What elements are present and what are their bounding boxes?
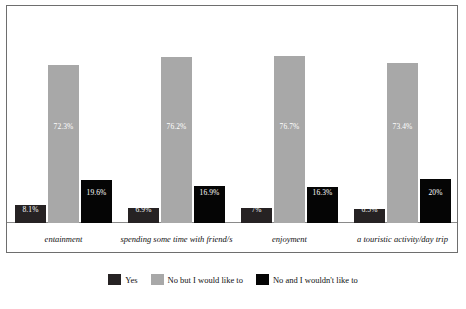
bar-no-and-wouldnt[interactable]: 19.6% bbox=[81, 180, 112, 223]
bar-value-label: 6.5% bbox=[354, 205, 385, 214]
bar-no-and-wouldnt[interactable]: 16.9% bbox=[194, 186, 225, 223]
bar-value-label: 8.1% bbox=[15, 205, 46, 214]
bar-cluster: 8.1%72.3%19.6% bbox=[7, 5, 120, 223]
bar-value-label: 76.7% bbox=[274, 122, 305, 131]
bar-groups: 8.1%72.3%19.6%entainment6.9%76.2%16.9%sp… bbox=[7, 6, 457, 252]
bar-no-and-wouldnt[interactable]: 20% bbox=[420, 179, 451, 223]
plot-area: 8.1%72.3%19.6%entainment6.9%76.2%16.9%sp… bbox=[6, 5, 458, 253]
legend-label: No and I wouldn't like to bbox=[273, 275, 358, 285]
grouped-bar-chart: 8.1%72.3%19.6%entainment6.9%76.2%16.9%sp… bbox=[0, 0, 466, 309]
bar-no-but-would[interactable]: 73.4% bbox=[387, 63, 418, 223]
bar-value-label: 73.4% bbox=[387, 122, 418, 131]
bar-no-but-would[interactable]: 76.7% bbox=[274, 56, 305, 223]
category-label: a touristic activity/day trip bbox=[328, 234, 466, 244]
bar-yes[interactable]: 7% bbox=[241, 208, 272, 223]
bar-group: 7%76.7%16.3%enjoyment bbox=[233, 6, 346, 252]
bar-cluster: 6.5%73.4%20% bbox=[346, 5, 459, 223]
legend-swatch-icon bbox=[151, 274, 164, 285]
bar-yes[interactable]: 6.5% bbox=[354, 209, 385, 223]
bar-cluster: 6.9%76.2%16.9% bbox=[120, 5, 233, 223]
legend-item-no-but-would[interactable]: No but I would like to bbox=[151, 274, 243, 285]
bar-group: 6.5%73.4%20%a touristic activity/day tri… bbox=[346, 6, 459, 252]
bar-value-label: 16.9% bbox=[194, 188, 225, 197]
bar-yes[interactable]: 8.1% bbox=[15, 205, 46, 223]
legend-label: Yes bbox=[125, 275, 137, 285]
chart-legend: YesNo but I would like toNo and I wouldn… bbox=[0, 274, 466, 285]
bar-group: 6.9%76.2%16.9%spending some time with fr… bbox=[120, 6, 233, 252]
bar-no-but-would[interactable]: 72.3% bbox=[48, 65, 79, 223]
bar-value-label: 72.3% bbox=[48, 122, 79, 131]
bar-cluster: 7%76.7%16.3% bbox=[233, 5, 346, 223]
bar-value-label: 6.9% bbox=[128, 205, 159, 214]
legend-label: No but I would like to bbox=[168, 275, 243, 285]
bar-value-label: 16.3% bbox=[307, 188, 338, 197]
legend-swatch-icon bbox=[108, 274, 121, 285]
bar-no-and-wouldnt[interactable]: 16.3% bbox=[307, 187, 338, 223]
legend-item-no-and-wouldnt[interactable]: No and I wouldn't like to bbox=[256, 274, 358, 285]
bar-value-label: 19.6% bbox=[81, 188, 112, 197]
legend-item-yes[interactable]: Yes bbox=[108, 274, 137, 285]
bar-value-label: 76.2% bbox=[161, 122, 192, 131]
bar-value-label: 7% bbox=[241, 205, 272, 214]
legend-swatch-icon bbox=[256, 274, 269, 285]
bar-group: 8.1%72.3%19.6%entainment bbox=[7, 6, 120, 252]
bar-no-but-would[interactable]: 76.2% bbox=[161, 57, 192, 223]
bar-value-label: 20% bbox=[420, 188, 451, 197]
bar-yes[interactable]: 6.9% bbox=[128, 208, 159, 223]
